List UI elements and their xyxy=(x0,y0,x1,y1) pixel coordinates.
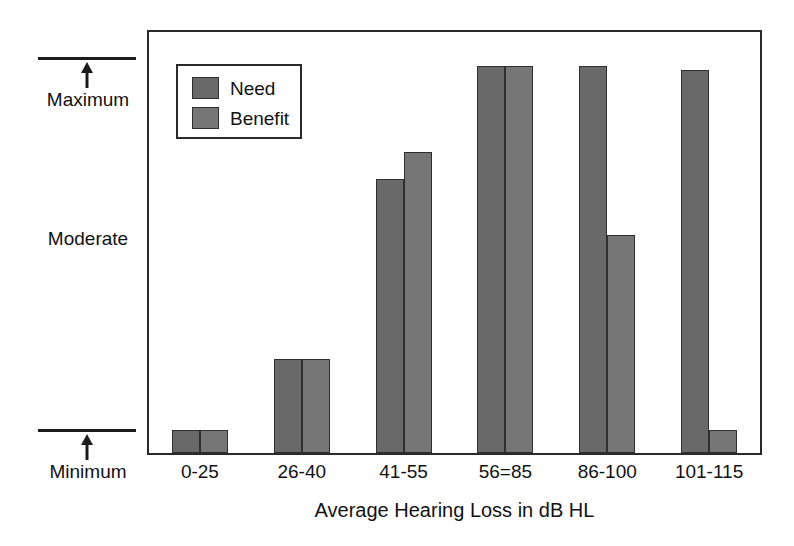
x-tick-label-26-40: 26-40 xyxy=(251,462,353,481)
bar-benefit-41-55 xyxy=(404,152,432,453)
bar-group-56=85 xyxy=(477,32,533,453)
x-tick-label-41-55: 41-55 xyxy=(353,462,455,481)
bar-need-26-40 xyxy=(274,359,302,453)
bar-need-0-25 xyxy=(172,430,200,453)
chart-legend: Need Benefit xyxy=(176,64,302,139)
bar-chart-figure: Maximum Moderate Minimum Need Benefit 0-… xyxy=(0,0,794,546)
legend-swatch-need-icon xyxy=(192,77,219,99)
x-tick-label-86-100: 86-100 xyxy=(556,462,658,481)
bar-group-86-100 xyxy=(579,32,635,453)
x-tick-label-0-25: 0-25 xyxy=(149,462,251,481)
y-axis-label-moderate: Moderate xyxy=(18,229,158,248)
y-axis-label-maximum: Maximum xyxy=(18,90,158,109)
bar-group-41-55 xyxy=(376,32,432,453)
legend-swatch-benefit-icon xyxy=(192,107,219,129)
legend-label-need: Need xyxy=(230,79,275,98)
legend-item-benefit: Benefit xyxy=(192,103,300,133)
maximum-arrow-icon xyxy=(80,62,94,88)
legend-item-need: Need xyxy=(192,73,300,103)
bar-benefit-86-100 xyxy=(607,235,635,453)
maximum-reference-line xyxy=(38,57,136,60)
bar-benefit-56=85 xyxy=(505,66,533,453)
y-axis-label-minimum: Minimum xyxy=(18,462,158,481)
minimum-arrow-icon xyxy=(80,434,94,460)
bar-group-101-115 xyxy=(681,32,737,453)
bar-need-56=85 xyxy=(477,66,505,453)
legend-label-benefit: Benefit xyxy=(230,109,289,128)
bar-need-86-100 xyxy=(579,66,607,453)
x-axis-title: Average Hearing Loss in dB HL xyxy=(147,500,762,520)
x-tick-label-56=85: 56=85 xyxy=(455,462,557,481)
bar-need-41-55 xyxy=(376,179,404,453)
minimum-reference-line xyxy=(38,429,136,432)
bar-benefit-26-40 xyxy=(302,359,330,453)
bar-need-101-115 xyxy=(681,70,709,453)
bar-benefit-101-115 xyxy=(709,430,737,453)
x-tick-label-101-115: 101-115 xyxy=(658,462,760,481)
bar-benefit-0-25 xyxy=(200,430,228,453)
